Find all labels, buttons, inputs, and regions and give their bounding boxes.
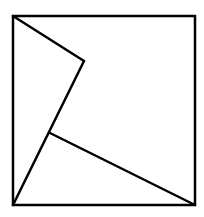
segment-junction-to-bottom-right	[50, 133, 195, 205]
segment-interior-point-to-bottom-left	[13, 61, 84, 205]
outer-square	[13, 16, 195, 205]
segment-corner-to-interior-point	[13, 16, 84, 61]
geometry-diagram	[0, 0, 204, 217]
